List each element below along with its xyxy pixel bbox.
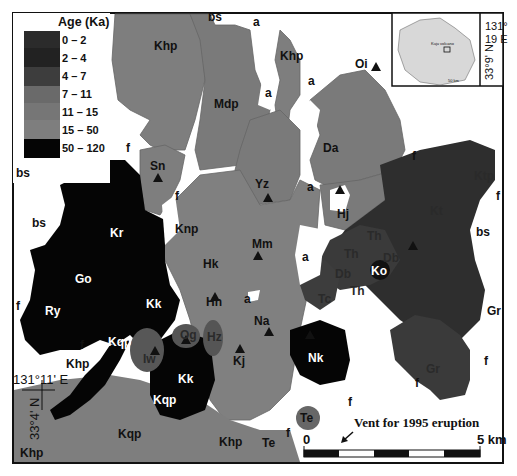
vent-label: Vent for 1995 eruption bbox=[354, 415, 480, 430]
label-mm: Mm bbox=[252, 237, 273, 251]
inset-lon-1: 131° bbox=[485, 20, 508, 32]
label-bs: bs bbox=[208, 10, 222, 24]
label-oi: Oi bbox=[355, 57, 368, 71]
legend-label-1: 2 – 4 bbox=[62, 52, 87, 64]
label-a: a bbox=[302, 250, 309, 264]
legend-swatch-1 bbox=[24, 48, 60, 67]
scale-start: 0 bbox=[303, 432, 310, 447]
label-th: Th bbox=[350, 284, 365, 298]
inset-volcano-label: Kuju volcano bbox=[431, 41, 455, 46]
legend-swatch-6 bbox=[24, 139, 60, 158]
label-ktp: Ktp bbox=[474, 169, 494, 183]
label-bs: bs bbox=[476, 225, 490, 239]
label-db: Db bbox=[335, 267, 351, 281]
label-iw: Iw bbox=[143, 352, 156, 366]
label-knp: Knp bbox=[175, 222, 198, 236]
label-yz: Yz bbox=[255, 177, 269, 191]
label-khp: Khp bbox=[280, 49, 303, 63]
label-gr: Gr bbox=[487, 304, 501, 318]
label-db: Db bbox=[383, 251, 399, 265]
label-kqp: Kqp bbox=[108, 335, 131, 349]
label-hk: Hk bbox=[203, 257, 219, 271]
legend-label-2: 4 – 7 bbox=[62, 70, 86, 82]
label-bs: bs bbox=[32, 216, 46, 230]
label-te: Te bbox=[300, 411, 313, 425]
label-go: Go bbox=[75, 272, 92, 286]
label-hn: Hn bbox=[206, 295, 222, 309]
label-mdp: Mdp bbox=[214, 97, 239, 111]
label-khp: Khp bbox=[20, 446, 43, 460]
legend-swatch-3 bbox=[24, 86, 60, 103]
sw-lat-label: 33°4' N bbox=[27, 398, 42, 440]
label-kqp: Kqp bbox=[153, 393, 176, 407]
label-th: Th bbox=[344, 247, 359, 261]
label-nk: Nk bbox=[308, 351, 324, 365]
label-sn: Sn bbox=[150, 159, 165, 173]
label-hj: Hj bbox=[337, 207, 349, 221]
label-ko: Ko bbox=[371, 264, 387, 278]
label-kj: Kj bbox=[233, 354, 245, 368]
legend-label-4: 11 – 15 bbox=[62, 106, 98, 118]
legend-swatch-4 bbox=[24, 103, 60, 120]
label-ry: Ry bbox=[45, 304, 61, 318]
label-khp: Khp bbox=[219, 435, 242, 449]
legend-label-5: 15 – 50 bbox=[62, 124, 99, 136]
label-a: a bbox=[308, 74, 315, 88]
legend-swatch-5 bbox=[24, 120, 60, 139]
legend-title: Age (Ka) bbox=[58, 15, 109, 29]
label-a: a bbox=[307, 180, 314, 194]
label-na: Na bbox=[254, 314, 270, 328]
label-a: a bbox=[244, 292, 251, 306]
legend-label-0: 0 – 2 bbox=[62, 34, 86, 46]
inset-scale-label: 50 km bbox=[448, 78, 460, 83]
label-khp: Khp bbox=[154, 39, 177, 53]
label-khp: Khp bbox=[66, 357, 89, 371]
label-kk: Kk bbox=[146, 297, 162, 311]
label-bs: bs bbox=[16, 166, 30, 180]
label-tc: Tc bbox=[318, 292, 331, 306]
label-hz: Hz bbox=[207, 330, 222, 344]
label-kqp: Kqp bbox=[118, 427, 141, 441]
label-kr: Kr bbox=[110, 226, 124, 240]
label-a: a bbox=[253, 15, 260, 29]
label-da: Da bbox=[323, 141, 339, 155]
inset-lat: 33°9' N bbox=[483, 44, 495, 80]
sw-lon-label: 131°11' E bbox=[13, 372, 68, 387]
inset-map: Kuju volcano 50 km 131° 19 E 33°9' N bbox=[392, 13, 508, 86]
legend: Age (Ka) 0 – 2 2 – 4 4 – 7 7 – 11 11 – 1… bbox=[13, 13, 110, 183]
label-te: Te bbox=[262, 436, 275, 450]
legend-swatch-0 bbox=[24, 31, 60, 48]
label-a: a bbox=[265, 86, 272, 100]
legend-label-3: 7 – 11 bbox=[62, 88, 92, 100]
geologic-map: Age (Ka) 0 – 2 2 – 4 4 – 7 7 – 11 11 – 1… bbox=[0, 0, 517, 476]
label-kt: Kt bbox=[430, 204, 443, 218]
scale-end: 5 km bbox=[477, 432, 507, 447]
label-gr: Gr bbox=[426, 362, 440, 376]
legend-swatch-2 bbox=[24, 67, 60, 86]
inset-lon-2: 19 E bbox=[485, 33, 508, 45]
label-kk: Kk bbox=[178, 372, 194, 386]
legend-label-6: 50 – 120 bbox=[62, 142, 105, 154]
label-og: Og bbox=[180, 328, 197, 342]
label-th: Th bbox=[367, 229, 382, 243]
